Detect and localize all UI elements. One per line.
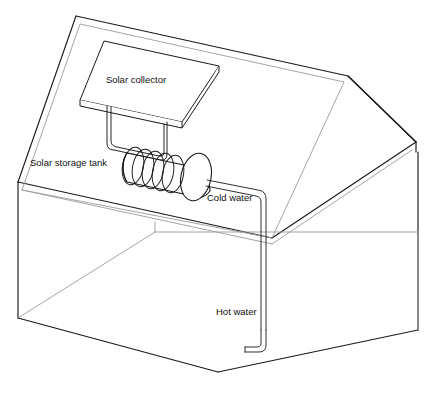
label-cold-water: Cold water	[207, 192, 252, 203]
roof-right-eave	[272, 142, 416, 238]
roof-right-slope	[348, 76, 416, 142]
solar-water-heating-diagram: <	[0, 0, 437, 402]
label-solar-collector: Solar collector	[106, 74, 166, 85]
hot-water-pipe-left-line	[245, 330, 261, 347]
roof-front-eave	[18, 182, 272, 238]
hot-water-pipe	[245, 330, 266, 352]
floor-back-left	[18, 232, 155, 318]
label-hot-water: Hot water	[216, 306, 257, 317]
label-solar-storage-tank: Solar storage tank	[30, 157, 107, 168]
roof-plane-outline	[22, 24, 344, 238]
hot-water-pipe-right-line	[245, 330, 266, 352]
roof-plane	[22, 24, 344, 238]
roof-right-eave-inner	[272, 150, 412, 244]
floor-right-edge	[218, 330, 418, 372]
floor-left-edge	[18, 318, 218, 372]
diagram-stage: <	[0, 0, 437, 402]
